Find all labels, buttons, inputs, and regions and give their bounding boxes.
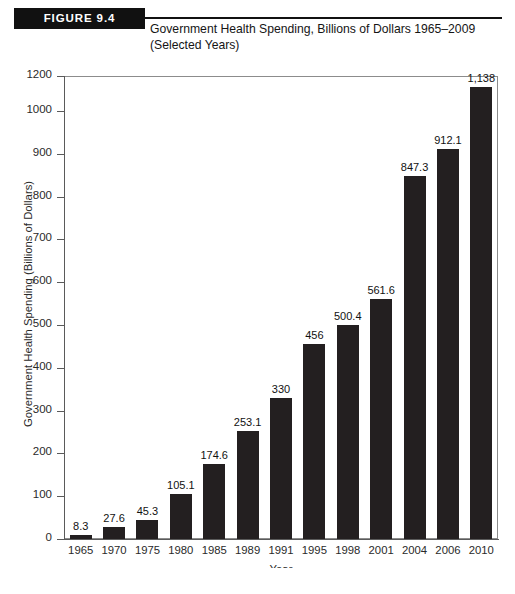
figure-header: FIGURE 9.4 Government Health Spending, B… bbox=[0, 0, 515, 58]
y-axis-line bbox=[64, 76, 65, 540]
page-bleed bbox=[0, 568, 515, 594]
bar bbox=[70, 535, 92, 539]
bar-value-label: 847.3 bbox=[385, 161, 445, 173]
figure-title-line-1: Government Health Spending, Billions of … bbox=[150, 22, 505, 38]
bar bbox=[470, 87, 492, 539]
y-axis-tick bbox=[57, 282, 64, 283]
bar bbox=[404, 176, 426, 539]
y-axis-tick bbox=[57, 325, 64, 326]
y-axis-tick-label: 1200 bbox=[0, 68, 52, 80]
bar bbox=[170, 494, 192, 539]
bar-value-label: 253.1 bbox=[218, 416, 278, 428]
bar-value-label: 330 bbox=[251, 383, 311, 395]
bar bbox=[370, 299, 392, 539]
figure-number-badge: FIGURE 9.4 bbox=[14, 8, 145, 29]
bar-value-label: 561.6 bbox=[351, 284, 411, 296]
bar bbox=[270, 398, 292, 539]
y-axis-tick bbox=[57, 496, 64, 497]
bar bbox=[203, 464, 225, 539]
y-axis-tick bbox=[57, 411, 64, 412]
y-axis-tick bbox=[57, 368, 64, 369]
figure-title-line-2: (Selected Years) bbox=[150, 38, 505, 54]
y-axis-tick bbox=[57, 111, 64, 112]
y-axis-tick bbox=[57, 453, 64, 454]
y-axis-tick-label: 1000 bbox=[0, 103, 52, 115]
y-axis-tick-label: 100 bbox=[0, 488, 52, 500]
bar bbox=[237, 431, 259, 539]
y-axis-tick bbox=[57, 239, 64, 240]
bar-value-label: 1,138 bbox=[451, 72, 511, 84]
x-axis-tick-label: 2010 bbox=[461, 544, 501, 556]
bar-value-label: 500.4 bbox=[318, 310, 378, 322]
y-axis-tick bbox=[57, 154, 64, 155]
bar-value-label: 105.1 bbox=[151, 479, 211, 491]
bar bbox=[136, 520, 158, 539]
y-axis-tick-label: 0 bbox=[0, 531, 52, 543]
bar bbox=[337, 325, 359, 539]
bar-value-label: 174.6 bbox=[184, 449, 244, 461]
bar-value-label: 456 bbox=[284, 329, 344, 341]
y-axis-tick bbox=[57, 539, 64, 540]
header-rule bbox=[145, 17, 502, 19]
y-axis-tick bbox=[57, 76, 64, 77]
bar bbox=[103, 527, 125, 539]
bar-value-label: 912.1 bbox=[418, 134, 478, 146]
bar bbox=[303, 344, 325, 539]
x-axis-line bbox=[64, 539, 499, 540]
y-axis-title: Government Health Spending (Billions of … bbox=[22, 144, 34, 464]
bar bbox=[437, 149, 459, 539]
bar-chart: 010020030040050060070080090010001200 8.3… bbox=[0, 58, 515, 594]
bar-value-label: 45.3 bbox=[117, 505, 177, 517]
figure-title: Government Health Spending, Billions of … bbox=[150, 22, 505, 53]
y-axis-tick bbox=[57, 197, 64, 198]
